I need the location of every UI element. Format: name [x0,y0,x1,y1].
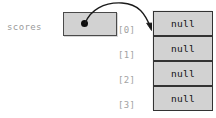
variable-name-label: scores [7,21,42,33]
array-cell-2: null [153,61,213,86]
index-label-2: [2] [118,75,148,86]
array-cell-value-0: null [171,18,195,29]
array-cell-1: null [153,36,213,61]
array-cell-value-3: null [171,93,195,104]
index-label-0: [0] [118,25,148,36]
pointer-dot-icon [81,20,88,27]
array-cell-3: null [153,86,213,111]
pointer-box [63,12,117,36]
array-reference-diagram: scores [0] [1] [2] [3] null null null nu… [0,0,216,118]
index-label-1: [1] [118,50,148,61]
array-container: null null null null [152,10,212,110]
index-label-3: [3] [118,100,148,111]
array-cell-value-1: null [171,43,195,54]
array-cell-value-2: null [171,68,195,79]
array-cell-0: null [153,11,213,36]
index-label-column: [0] [1] [2] [3] [118,10,148,110]
